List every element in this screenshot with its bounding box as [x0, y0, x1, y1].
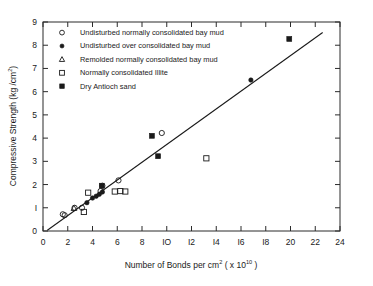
x-tick-label: 6: [115, 237, 120, 247]
legend: Undisturbed normally consolidated bay mu…: [59, 28, 223, 91]
x-axis-title-tail: ( x 10: [225, 260, 247, 270]
data-point-open-square: [112, 189, 117, 194]
x-tick-label: 8: [140, 237, 145, 247]
legend-entry: Remolded normally consolidated bay mud: [59, 55, 217, 64]
y-tick-label: 2: [32, 180, 37, 190]
legend-label: Normally consolidated Illite: [80, 68, 168, 77]
x-tick-label: 2: [65, 237, 70, 247]
y-axis-title-main: Compressive Strength (kg /cm: [8, 72, 18, 186]
y-axis-title: Compressive Strength (kg /cm2): [7, 66, 18, 186]
data-point-filled-circle: [249, 78, 253, 82]
x-axis-title-close: ): [252, 260, 257, 270]
legend-marker-open-triangle: [59, 57, 64, 62]
y-tick-label: 0: [32, 226, 37, 236]
y-tick-label: 5: [32, 110, 37, 120]
legend-entry: Dry Antioch sand: [60, 82, 136, 91]
data-point-filled-circle: [100, 190, 104, 194]
x-tick-label: 20: [286, 237, 296, 247]
data-point-open-square: [86, 190, 91, 195]
y-tick-label: 6: [32, 87, 37, 97]
x-tick-label: 0: [41, 237, 46, 247]
x-tick-label: 22: [311, 237, 321, 247]
x-axis-title: Number of Bonds per cm2 ( x 1010 ): [125, 259, 258, 270]
scatter-plot-svg: 02468IOI2I4I6I8202224 0I23456789 Number …: [0, 0, 373, 286]
y-tick-label: 8: [32, 40, 37, 50]
data-point-filled-square: [149, 133, 154, 138]
series-open-circle: [60, 130, 164, 217]
legend-entry: Undisturbed over consolidated bay mud: [60, 41, 210, 50]
x-tick-label: 24: [335, 237, 345, 247]
y-axis-title-close: ): [8, 66, 18, 69]
legend-marker-filled-circle: [60, 44, 64, 48]
y-tick-label: 9: [32, 17, 37, 27]
y-tick-label: 4: [32, 133, 37, 143]
data-point-open-square: [204, 156, 209, 161]
data-point-open-circle: [62, 213, 67, 218]
svg-text:Compressive Strength (kg /cm: Compressive Strength (kg /cm2): [7, 66, 18, 186]
legend-marker-filled-square: [60, 84, 65, 89]
y-axis-tick-labels: 0I23456789: [32, 17, 37, 236]
legend-entry: Undisturbed normally consolidated bay mu…: [60, 28, 224, 37]
chart-figure: 02468IOI2I4I6I8202224 0I23456789 Number …: [0, 0, 373, 286]
x-tick-label: 4: [90, 237, 95, 247]
legend-label: Undisturbed normally consolidated bay mu…: [80, 28, 224, 37]
data-point-filled-square: [287, 36, 292, 41]
legend-entry: Normally consolidated Illite: [60, 68, 168, 77]
svg-text:Number of Bonds per cm2 (: Number of Bonds per cm2 ( x 1010 ): [125, 259, 258, 270]
legend-label: Undisturbed over consolidated bay mud: [80, 41, 210, 50]
x-tick-label: I2: [188, 237, 195, 247]
data-point-filled-square: [99, 183, 104, 188]
x-axis-title-main: Number of Bonds per cm: [125, 260, 219, 270]
data-point-filled-square: [156, 154, 161, 159]
x-tick-label: I4: [213, 237, 220, 247]
data-point-open-square: [123, 189, 128, 194]
x-axis-tick-labels: 02468IOI2I4I6I8202224: [41, 237, 345, 247]
legend-marker-open-circle: [60, 30, 65, 35]
x-tick-label: I8: [262, 237, 269, 247]
y-tick-label: 7: [32, 63, 37, 73]
x-tick-label: I6: [237, 237, 244, 247]
y-tick-label: I: [35, 203, 37, 213]
legend-marker-open-square: [60, 70, 65, 75]
legend-label: Remolded normally consolidated bay mud: [80, 55, 218, 64]
data-point-filled-circle: [85, 200, 89, 204]
legend-label: Dry Antioch sand: [80, 82, 136, 91]
data-point-open-circle: [159, 130, 164, 135]
y-tick-label: 3: [32, 156, 37, 166]
data-point-open-square: [118, 188, 123, 193]
x-tick-label: IO: [162, 237, 171, 247]
